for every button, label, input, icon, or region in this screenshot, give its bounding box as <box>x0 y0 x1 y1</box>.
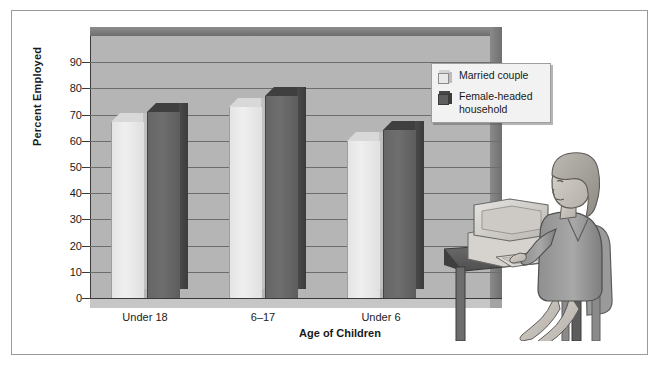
x-axis-label-Under18: Under 18 <box>122 311 167 323</box>
y-tick-label-20: 20 <box>70 240 82 251</box>
y-axis-title: Percent Employed <box>31 47 43 146</box>
y-tick-label-80: 80 <box>70 83 82 94</box>
bar-Under6-female-headed-household <box>383 121 415 298</box>
bar-front-face <box>111 122 144 298</box>
chart-wall-top <box>90 27 490 36</box>
bar-front-face <box>147 112 180 298</box>
y-tick-label-30: 30 <box>70 214 82 225</box>
y-tick-label-10: 10 <box>70 266 82 277</box>
y-tick-0 <box>82 298 90 299</box>
light-cube-icon <box>438 70 452 84</box>
y-tick-80 <box>82 88 90 89</box>
chart-floor <box>90 298 490 308</box>
bar-side-face <box>415 121 424 289</box>
y-tick-label-0: 0 <box>76 293 82 304</box>
x-axis-label-Under6: Under 6 <box>361 311 400 323</box>
bar-side-face <box>297 87 306 289</box>
bar-Under18-married-couple <box>111 113 143 298</box>
figure-frame: 0102030405060708090 Under 186–17Under 6 … <box>11 10 648 355</box>
y-tick-label-70: 70 <box>70 109 82 120</box>
bar-Under6-married-couple <box>347 132 379 298</box>
woman-at-computer-illustration <box>444 141 656 341</box>
chart-legend: Married couple Female-headed household <box>431 63 551 123</box>
legend-label-female-headed-household: Female-headed household <box>459 90 544 115</box>
y-tick-30 <box>82 219 90 220</box>
bar-front-face <box>383 130 416 298</box>
y-tick-90 <box>82 62 90 63</box>
y-tick-20 <box>82 246 90 247</box>
bar-chart: 0102030405060708090 Under 186–17Under 6 … <box>78 27 502 309</box>
x-axis-title: Age of Children <box>299 327 381 339</box>
legend-label-married-couple: Married couple <box>459 69 528 82</box>
y-tick-label-40: 40 <box>70 188 82 199</box>
y-tick-10 <box>82 272 90 273</box>
bar-front-face <box>347 141 380 298</box>
gridline-0 <box>90 298 502 299</box>
y-tick-50 <box>82 167 90 168</box>
y-tick-70 <box>82 115 90 116</box>
bar-front-face <box>265 96 298 298</box>
legend-item-female-headed-household: Female-headed household <box>438 90 544 115</box>
bar-Under18-female-headed-household <box>147 103 179 298</box>
legend-item-married-couple: Married couple <box>438 69 544 84</box>
x-axis-label-617: 6–17 <box>251 311 275 323</box>
y-tick-60 <box>82 141 90 142</box>
dark-cube-icon <box>438 91 452 105</box>
bar-617-married-couple <box>229 98 261 298</box>
y-tick-label-90: 90 <box>70 57 82 68</box>
y-tick-label-60: 60 <box>70 135 82 146</box>
y-tick-label-50: 50 <box>70 162 82 173</box>
bar-617-female-headed-household <box>265 87 297 298</box>
bar-front-face <box>229 107 262 298</box>
bar-side-face <box>179 103 188 289</box>
y-tick-40 <box>82 193 90 194</box>
